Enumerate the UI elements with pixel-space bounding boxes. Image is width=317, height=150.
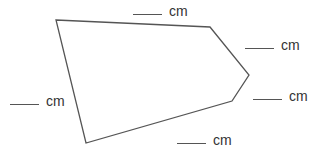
answer-blank-lower-right[interactable]	[253, 99, 282, 100]
unit-left: cm	[46, 92, 65, 110]
pentagon-outline	[56, 20, 249, 143]
pentagon-shape	[0, 0, 317, 150]
side-label-lower-right: cm	[253, 87, 308, 105]
side-label-top: cm	[133, 2, 188, 20]
answer-blank-upper-right[interactable]	[245, 48, 274, 49]
answer-blank-bottom[interactable]	[177, 143, 206, 144]
side-label-bottom: cm	[177, 131, 232, 149]
unit-upper-right: cm	[281, 36, 300, 54]
unit-bottom: cm	[213, 131, 232, 149]
answer-blank-top[interactable]	[133, 14, 162, 15]
side-label-upper-right: cm	[245, 36, 300, 54]
unit-lower-right: cm	[289, 87, 308, 105]
unit-top: cm	[169, 2, 188, 20]
answer-blank-left[interactable]	[10, 104, 39, 105]
side-label-left: cm	[10, 92, 65, 110]
